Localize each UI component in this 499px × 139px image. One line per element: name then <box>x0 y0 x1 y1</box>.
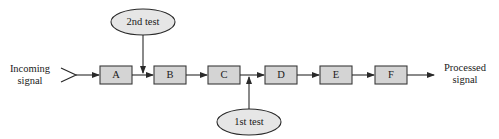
input-label-line1: Incoming <box>2 63 58 75</box>
input-label-line2: signal <box>2 75 58 87</box>
test-label-1st: 1st test <box>217 116 281 128</box>
stage-label-a: A <box>100 66 132 84</box>
stage-label-c: C <box>208 66 240 84</box>
input-label: Incoming signal <box>2 63 58 87</box>
output-label-line1: Processed <box>434 62 496 74</box>
input-chevron-icon <box>61 68 76 82</box>
stage-label-b: B <box>154 66 186 84</box>
test-label-2nd: 2nd test <box>111 16 175 28</box>
output-label-line2: signal <box>434 74 496 86</box>
stage-label-d: D <box>265 66 297 84</box>
stage-label-f: F <box>375 66 407 84</box>
output-label: Processed signal <box>434 62 496 86</box>
signal-processing-diagram: Incoming signal Processed signal A B C D… <box>0 0 499 139</box>
stage-label-e: E <box>320 66 352 84</box>
